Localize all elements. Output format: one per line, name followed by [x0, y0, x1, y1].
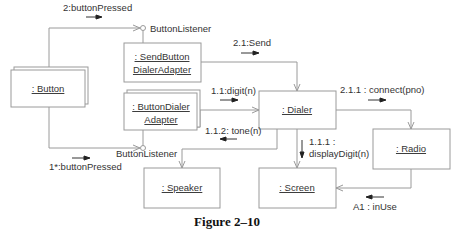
svg-text:Adapter: Adapter	[144, 114, 177, 125]
svg-text:: Speaker: : Speaker	[162, 182, 203, 193]
message-arrow-left-icon	[220, 137, 226, 141]
message-send: 2.1:Send	[233, 37, 271, 48]
collaboration-diagram: : Button : SendButton DialerAdapter : Bu…	[0, 0, 451, 232]
svg-text:: Radio: : Radio	[396, 143, 426, 154]
message-in-use: A1 : inUse	[353, 201, 397, 212]
svg-text:DialerAdapter: DialerAdapter	[133, 64, 191, 75]
message-arrow-right-icon	[380, 98, 386, 102]
object-button-dialer-adapter: : ButtonDialer Adapter	[124, 90, 200, 130]
message-arrow-right-icon	[96, 15, 102, 19]
message-arrow-right-icon	[253, 51, 259, 55]
message-digit: 1.1:digit(n)	[211, 85, 256, 96]
message-display-digit-line2: displayDigit(n)	[309, 148, 369, 159]
object-screen: : Screen	[259, 168, 336, 208]
svg-text:: Dialer: : Dialer	[282, 104, 312, 115]
object-button: : Button	[11, 67, 88, 107]
svg-text:: Screen: : Screen	[279, 182, 314, 193]
message-arrow-right-icon	[84, 156, 90, 160]
message-arrow-right-icon	[232, 98, 238, 102]
message-button-pressed-top: 2:buttonPressed	[63, 2, 132, 13]
svg-text:: SendButton: : SendButton	[135, 51, 190, 62]
interface-label-top: ButtonListener	[150, 23, 211, 34]
figure-caption: Figure 2–10	[194, 214, 260, 229]
object-radio: : Radio	[373, 129, 450, 169]
svg-text:: ButtonDialer: : ButtonDialer	[132, 101, 190, 112]
message-connect: 2.1.1 : connect(pno)	[340, 84, 425, 95]
message-button-pressed-bottom: 1*:buttonPressed	[49, 161, 122, 172]
object-dialer: : Dialer	[259, 91, 336, 129]
message-display-digit-line1: 1.1.1 :	[309, 136, 335, 147]
interface-label-bottom: ButtonListener	[116, 148, 177, 159]
message-arrow-left-icon	[366, 195, 372, 199]
link-dialer-to-radio	[336, 110, 411, 129]
object-speaker: : Speaker	[144, 168, 220, 208]
message-tone: 1.1.2: tone(n)	[205, 125, 262, 136]
link-radio-to-screen	[336, 169, 411, 188]
message-arrow-down-icon	[300, 152, 304, 158]
object-send-button-dialer-adapter: : SendButton DialerAdapter	[124, 43, 201, 82]
svg-text:: Button: : Button	[32, 83, 65, 94]
